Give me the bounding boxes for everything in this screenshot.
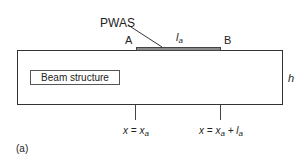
marker-start-label: x = xa bbox=[123, 125, 149, 140]
marker-end-plus: + l bbox=[225, 125, 239, 136]
end-b-label: B bbox=[224, 34, 231, 46]
height-label: h bbox=[288, 72, 294, 84]
panel-label: (a) bbox=[16, 143, 28, 155]
length-label: la bbox=[176, 31, 183, 47]
marker-tick-start bbox=[135, 105, 136, 120]
marker-tick-end bbox=[220, 105, 221, 120]
beam-structure-label: Beam structure bbox=[30, 70, 120, 85]
pwas-label: PWAS bbox=[100, 17, 135, 29]
marker-end-sub2: a bbox=[238, 129, 242, 138]
length-subscript: a bbox=[178, 36, 182, 45]
marker-end-label: x = xa + la bbox=[199, 125, 243, 140]
end-a-label: A bbox=[125, 34, 132, 46]
marker-start-sub: a bbox=[144, 129, 148, 138]
marker-start-eq: x = x bbox=[123, 125, 144, 136]
marker-end-eq: x = x bbox=[199, 125, 220, 136]
